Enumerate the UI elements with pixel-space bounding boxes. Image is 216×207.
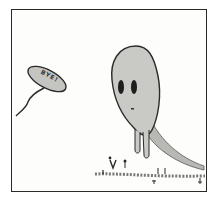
ghost-leg-left	[135, 130, 140, 153]
ghost-mouth	[131, 108, 134, 110]
speech-bubble-tail	[16, 88, 44, 116]
ground-line	[95, 174, 205, 176]
ghost-eye-left	[118, 80, 124, 94]
sprout-icon	[110, 160, 116, 168]
ghost-leg-right	[143, 130, 149, 158]
comic-scene	[0, 0, 216, 207]
ghost-eye-right	[131, 80, 137, 94]
